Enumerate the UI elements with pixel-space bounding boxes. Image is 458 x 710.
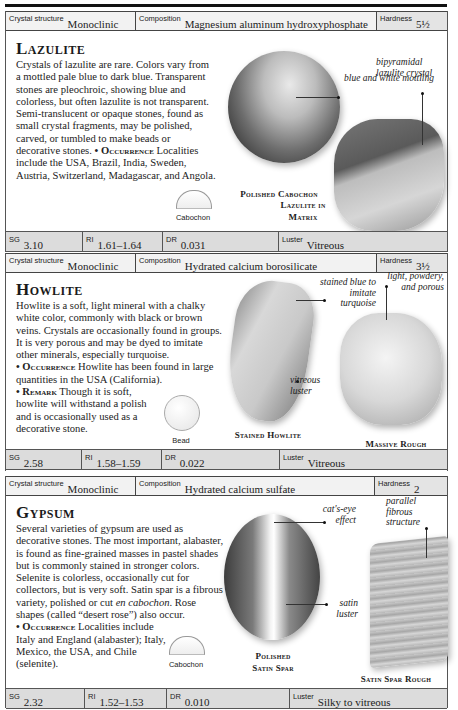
top-rule	[5, 4, 447, 7]
image-caption: Satin Spar Rough	[344, 674, 448, 684]
hardness: Hardness 3½	[377, 254, 447, 272]
double-refraction: DR 0.031	[163, 232, 279, 251]
crystal-structure: Crystal structure Monoclinic	[6, 477, 136, 495]
occurrence-label: • Occurrence	[16, 621, 75, 632]
occurrence-label: • Occurrence	[95, 145, 154, 156]
image-caption: PolishedSatin Spar	[228, 650, 318, 674]
remark-label: • Remark	[16, 386, 57, 397]
polished-cabochon-image	[228, 51, 340, 163]
bead-shape-icon	[164, 395, 200, 431]
refractive-index: RI 1.52–1.53	[85, 689, 167, 708]
image-note: stained blue to imitate turquoise	[316, 277, 376, 309]
shape-label: Bead	[156, 436, 206, 445]
composition: Composition Hydrated calcium borosilicat…	[136, 254, 377, 272]
entry-howlite: Crystal structure Monoclinic Composition…	[5, 253, 448, 471]
properties-header: Crystal structure Monoclinic Composition…	[6, 11, 447, 31]
image-note: bipyramidal lazulite crystal	[376, 57, 446, 78]
specific-gravity: SG 2.32	[6, 689, 85, 708]
refractive-index: RI 1.58–1.59	[82, 450, 162, 469]
stained-howlite-image	[222, 276, 319, 425]
double-refraction: DR 0.010	[167, 689, 290, 708]
optical-properties: SG 2.32 RI 1.52–1.53 DR 0.010 Luster Sil…	[6, 688, 447, 709]
shape-label: Cabochon	[166, 213, 220, 222]
shape-label: Cabochon	[159, 660, 213, 669]
leader-dot	[337, 96, 340, 99]
gem-title: Howlite	[16, 280, 83, 300]
leader-line	[286, 604, 326, 605]
entry-lazulite: Crystal structure Monoclinic Composition…	[5, 11, 448, 252]
properties-header: Crystal structure Monoclinic Composition…	[6, 253, 447, 273]
leader-dot	[421, 92, 424, 95]
image-caption: Massive Rough	[351, 439, 441, 449]
image-caption: Polished Cabochon	[219, 189, 339, 199]
image-caption: Lazulite in Matrix	[268, 199, 338, 223]
optical-properties: SG 3.10 RI 1.61–1.64 DR 0.031 Luster Vit…	[6, 231, 447, 252]
specific-gravity: SG 2.58	[6, 450, 82, 469]
optical-properties: SG 2.58 RI 1.58–1.59 DR 0.022 Luster Vit…	[6, 449, 447, 470]
hardness: Hardness 2	[375, 477, 447, 495]
composition: Composition Hydrated calcium sulfate	[136, 477, 375, 495]
specific-gravity: SG 3.10	[6, 232, 83, 251]
cabochon-shape-icon	[176, 190, 212, 209]
gem-title: Gypsum	[16, 503, 75, 523]
luster: Luster Vitreous	[280, 450, 447, 469]
image-note: vitreous luster	[290, 375, 340, 396]
luster: Luster Vitreous	[279, 232, 447, 251]
image-note: cat's-eye effect	[306, 504, 356, 525]
satin-spar-rough-image	[370, 536, 448, 668]
leader-line	[426, 528, 427, 558]
crystal-structure: Crystal structure Monoclinic	[6, 254, 136, 272]
entry-gypsum: Crystal structure Monoclinic Composition…	[5, 476, 448, 708]
lazulite-in-matrix-image	[334, 119, 444, 231]
image-caption: Stained Howlite	[218, 430, 318, 440]
refractive-index: RI 1.61–1.64	[83, 232, 163, 251]
gem-description: Crystals of lazulite are rare. Colors va…	[16, 59, 216, 182]
double-refraction: DR 0.022	[162, 450, 280, 469]
leader-line	[422, 93, 423, 145]
crystal-structure: Crystal structure Monoclinic	[6, 12, 136, 30]
image-note: parallel fibrous structure	[386, 496, 442, 528]
hardness: Hardness 5½	[377, 12, 447, 30]
properties-header: Crystal structure Monoclinic Composition…	[6, 476, 447, 496]
leader-line	[296, 97, 338, 98]
image-note: satin luster	[326, 598, 358, 619]
luster: Luster Silky to vitreous	[290, 689, 447, 708]
composition: Composition Magnesium aluminum hydroxyph…	[136, 12, 377, 30]
massive-rough-image	[340, 313, 442, 425]
polished-satin-spar-image	[224, 514, 320, 640]
gem-title: Lazulite	[16, 39, 85, 59]
occurrence-label: • Occurrence	[16, 361, 75, 372]
image-note: light, powdery, and porous	[374, 271, 444, 292]
